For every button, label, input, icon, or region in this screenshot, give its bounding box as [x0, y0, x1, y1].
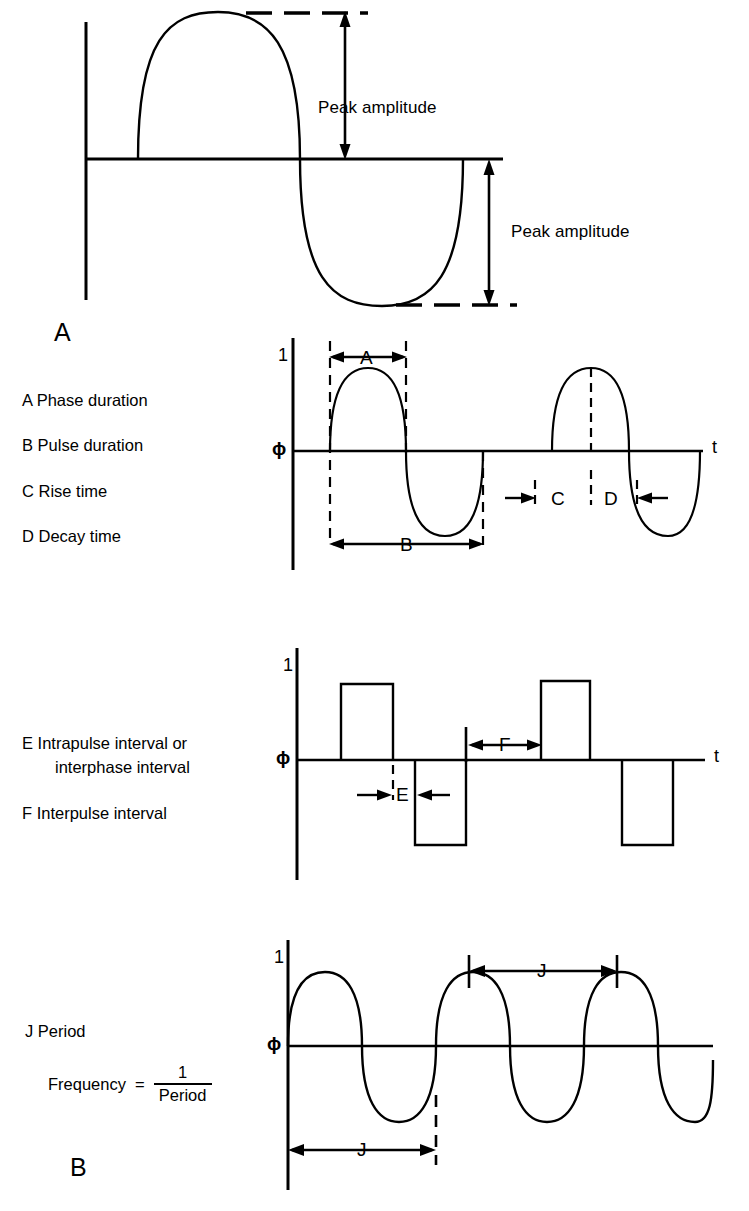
legend-pulse-duration: B Pulse duration — [22, 435, 143, 456]
legend-decay-time: D Decay time — [22, 526, 121, 547]
panel2-y-tick-zero: ϕ — [272, 438, 286, 460]
panel-a-negative-phase — [300, 159, 463, 306]
panel4-y-tick-one: 1 — [274, 947, 284, 968]
formula-denominator: Period — [154, 1086, 212, 1105]
panel3-pulse2-negative — [622, 760, 673, 845]
peak-amplitude-label-positive: Peak amplitude — [318, 98, 437, 118]
panel3-pulse1-negative — [415, 760, 466, 845]
panel-intervals-graphic — [297, 648, 705, 880]
formula-fraction-bar — [154, 1083, 212, 1085]
formula-lhs: Frequency — [48, 1075, 126, 1094]
panel3-pulse1-positive — [341, 684, 393, 760]
legend-interpulse-interval: F Interpulse interval — [22, 803, 167, 824]
legend-phase-duration: A Phase duration — [22, 390, 148, 411]
panel3-arrow-e-left — [357, 790, 392, 801]
panel-letter-b: B — [70, 1153, 87, 1182]
panel4-marker-j-lower: J — [357, 1139, 367, 1161]
peak-amplitude-label-negative: Peak amplitude — [511, 222, 630, 242]
legend-intrapulse-interval-line1: E Intrapulse interval or — [22, 733, 187, 754]
panel4-marker-j-upper: J — [537, 960, 547, 982]
panel-phase-pulse-graphic — [293, 338, 703, 570]
formula-numerator: 1 — [154, 1063, 212, 1082]
panel2-pulse1-negative — [406, 451, 483, 536]
frequency-formula: Frequency = 1 Period — [48, 1063, 212, 1105]
panel2-marker-a: A — [360, 347, 373, 369]
panel2-pulse2-positive — [552, 368, 629, 451]
panel-a-graphic — [86, 11, 517, 306]
panel2-pulse1-positive — [330, 368, 406, 451]
panel-letter-a: A — [54, 318, 71, 347]
panel3-y-tick-zero: ϕ — [276, 747, 290, 769]
panel2-y-tick-one: 1 — [278, 345, 288, 366]
panel-period-graphic — [288, 940, 713, 1190]
panel2-marker-b: B — [400, 534, 413, 556]
panel2-marker-c: C — [551, 488, 565, 510]
legend-period: J Period — [25, 1021, 86, 1042]
panel-a-arrow-positive — [340, 11, 351, 160]
panel2-marker-d: D — [604, 488, 618, 510]
panel3-marker-e: E — [396, 784, 409, 806]
panel2-arrow-into-d — [637, 493, 668, 504]
panel3-arrow-e-right — [417, 790, 450, 801]
panel3-x-axis-label: t — [714, 746, 719, 767]
panel4-y-tick-zero: ϕ — [267, 1033, 281, 1055]
waveform-figure — [0, 0, 749, 1211]
panel-a-arrow-negative — [484, 159, 495, 306]
formula-equals: = — [135, 1075, 145, 1094]
panel2-arrow-into-c — [505, 493, 536, 504]
panel3-marker-f: F — [499, 734, 511, 756]
panel-a-positive-phase — [138, 12, 300, 159]
panel2-x-axis-label: t — [712, 437, 717, 458]
panel3-pulse2-positive — [541, 681, 590, 760]
legend-rise-time: C Rise time — [22, 481, 107, 502]
panel2-pulse2-negative — [629, 451, 700, 536]
panel3-y-tick-one: 1 — [283, 655, 293, 676]
legend-intrapulse-interval-line2: interphase interval — [55, 757, 190, 778]
